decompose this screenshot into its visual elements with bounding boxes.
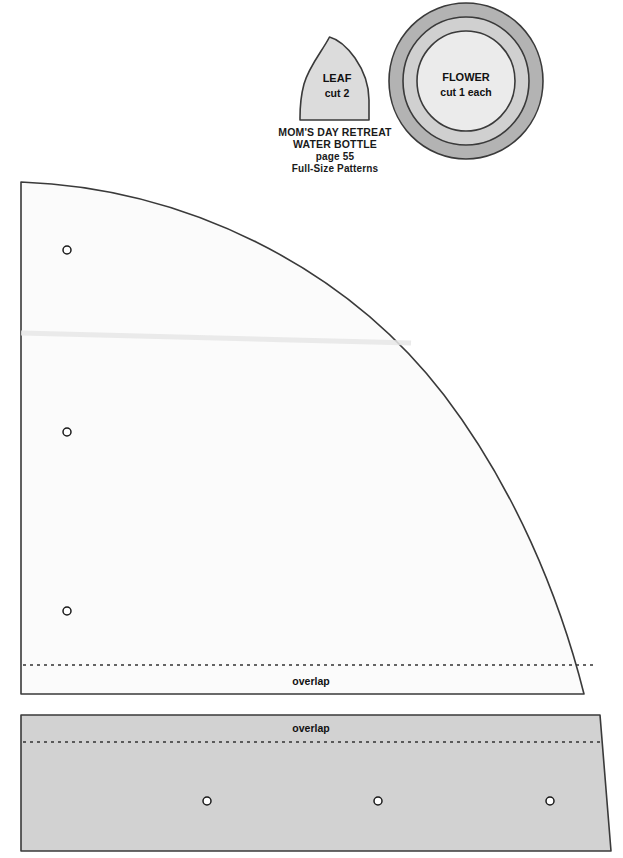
title-line-page: page 55 (255, 151, 415, 163)
flower-label: FLOWER (442, 71, 490, 83)
title-line-subtitle: Full-Size Patterns (255, 163, 415, 175)
leaf-label: LEAF (323, 72, 352, 84)
lower-panel-hole (546, 797, 554, 805)
pattern-title-block: MOM'S DAY RETREAT WATER BOTTLE page 55 F… (255, 126, 415, 174)
title-line-event: MOM'S DAY RETREAT (255, 126, 415, 138)
upper-panel-hole (63, 428, 71, 436)
leaf-piece: LEAF cut 2 (293, 30, 379, 130)
leaf-quantity: cut 2 (325, 87, 350, 99)
pattern-sheet: LEAF cut 2 FLOWER cut 1 each MOM'S DAY R… (0, 0, 623, 858)
lower-panel-outline (21, 715, 611, 851)
lower-panel-hole (374, 797, 382, 805)
upper-panel-hole (63, 246, 71, 254)
lower-band-panel: overlap (14, 708, 618, 858)
lower-panel-hole (203, 797, 211, 805)
flower-quantity: cut 1 each (440, 86, 491, 98)
upper-body-panel: overlap (14, 175, 614, 703)
upper-panel-outline (21, 182, 584, 694)
upper-panel-hole (63, 607, 71, 615)
upper-overlap-label: overlap (292, 675, 329, 687)
lower-overlap-label: overlap (292, 722, 329, 734)
title-line-project: WATER BOTTLE (255, 138, 415, 150)
